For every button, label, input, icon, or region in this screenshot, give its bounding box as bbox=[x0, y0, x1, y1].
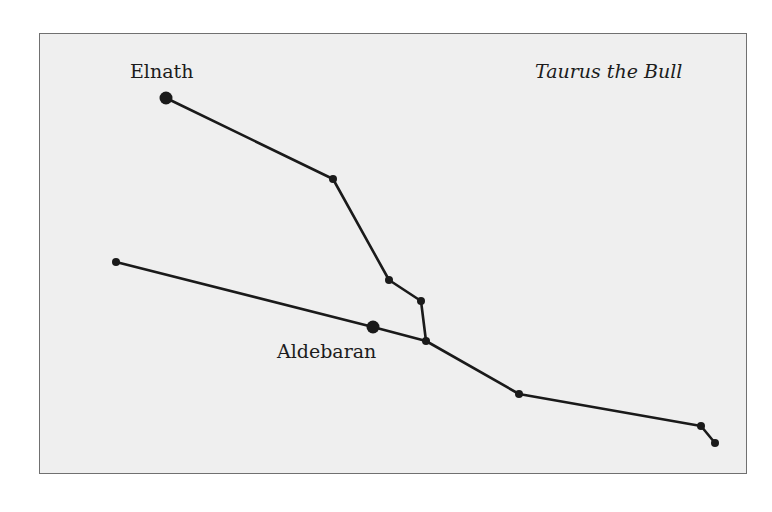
constellation-stars bbox=[112, 92, 719, 448]
constellation-diagram: Taurus the Bull Elnath Aldebaran bbox=[0, 0, 772, 512]
star-label-elnath: Elnath bbox=[130, 62, 193, 81]
constellation-line bbox=[116, 262, 373, 327]
star-dot bbox=[329, 175, 337, 183]
star-dot bbox=[697, 422, 705, 430]
star-dot bbox=[422, 337, 430, 345]
constellation-line bbox=[519, 394, 701, 426]
star-dot bbox=[385, 276, 393, 284]
constellation-line bbox=[421, 301, 426, 341]
constellation-line bbox=[166, 98, 333, 179]
star-dot bbox=[515, 390, 523, 398]
star-label-aldebaran: Aldebaran bbox=[277, 342, 376, 361]
constellation-lines bbox=[116, 98, 715, 443]
star-dot bbox=[711, 439, 719, 447]
star-elnath bbox=[160, 92, 173, 105]
star-aldebaran bbox=[367, 321, 380, 334]
star-dot bbox=[417, 297, 425, 305]
constellation-line bbox=[389, 280, 421, 301]
diagram-title: Taurus the Bull bbox=[535, 62, 682, 81]
constellation-line bbox=[426, 341, 519, 394]
constellation-line bbox=[373, 327, 426, 341]
star-dot bbox=[112, 258, 120, 266]
constellation-line bbox=[333, 179, 389, 280]
